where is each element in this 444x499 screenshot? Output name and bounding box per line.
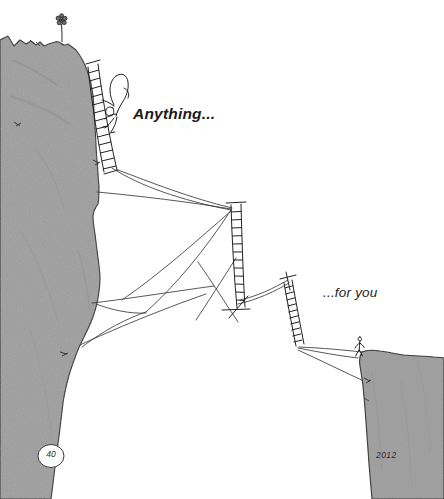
left-cliff (0, 36, 100, 499)
caption-anything: Anything... (133, 105, 215, 123)
climber-figure (102, 74, 129, 133)
rope-network (80, 168, 366, 382)
illustration-artboard (0, 0, 444, 499)
illustration-page: Anything... ...for you 40 2012 (0, 0, 444, 499)
middle-ladder (222, 202, 250, 318)
right-cliff (360, 350, 444, 499)
page-number: 40 (40, 449, 62, 459)
summit-flower-icon (56, 14, 67, 42)
caption-for-you: ...for you (323, 285, 378, 300)
right-ladder (280, 272, 304, 346)
year-label: 2012 (376, 450, 397, 460)
